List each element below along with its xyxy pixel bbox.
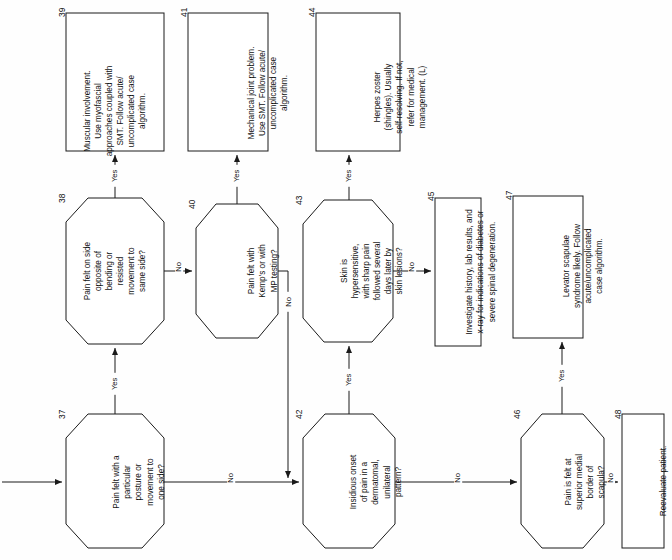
edge-label-43-44: Yes [345, 165, 353, 187]
node-45-shape [435, 198, 481, 346]
edge-label-40-42: No [285, 292, 293, 312]
node-44-shape [316, 13, 400, 151]
node-number-37: 37 [58, 407, 66, 421]
node-number-38: 38 [58, 191, 66, 205]
edge-label-46-48: No [607, 468, 615, 488]
edge-label-40-41: Yes [233, 165, 241, 187]
node-48-shape [622, 414, 664, 548]
flowchart-svg [0, 0, 672, 560]
node-number-41: 41 [180, 5, 188, 19]
node-37-shape [66, 414, 164, 548]
node-number-44: 44 [308, 5, 316, 19]
edge-label-43-45: No [408, 257, 416, 277]
node-40-shape [196, 204, 278, 338]
node-38-shape [66, 198, 164, 344]
node-number-45: 45 [427, 189, 435, 203]
edge-label-37-38: Yes [111, 373, 119, 395]
node-46-shape [521, 414, 604, 548]
node-39-shape [66, 13, 164, 151]
edge-label-37-42: No [227, 468, 235, 488]
edge-label-38-39: Yes [111, 165, 119, 187]
flowchart-canvas: 39 41 44 38 40 43 45 47 37 42 46 48 Musc… [0, 0, 672, 560]
edge-label-42-43: Yes [345, 369, 353, 391]
edge-label-46-47: Yes [558, 365, 566, 387]
node-number-39: 39 [58, 5, 66, 19]
node-41-shape [188, 13, 268, 151]
node-47-shape [513, 196, 583, 338]
node-number-47: 47 [505, 188, 513, 202]
node-number-42: 42 [295, 407, 303, 421]
node-43-shape [303, 200, 393, 342]
node-number-40: 40 [188, 197, 196, 211]
edge-label-38-40: No [175, 257, 183, 277]
node-number-46: 46 [513, 407, 521, 421]
node-42-shape [303, 414, 395, 548]
edge-label-42-46: No [454, 468, 462, 488]
node-number-48: 48 [614, 407, 622, 421]
node-number-43: 43 [295, 193, 303, 207]
